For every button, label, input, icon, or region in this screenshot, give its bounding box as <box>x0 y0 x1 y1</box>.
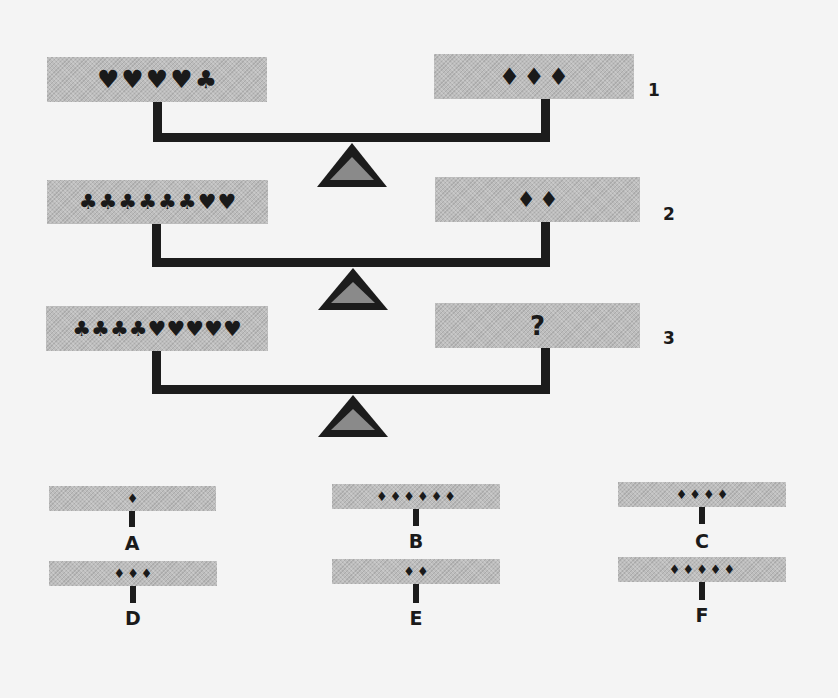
diamond-icon: ♦ <box>696 562 708 577</box>
option-c-diamonds: ♦♦♦♦ <box>675 487 730 502</box>
option-b-diamonds: ♦♦♦♦♦♦ <box>375 489 457 504</box>
scale-2-fulcrum-icon <box>316 266 390 312</box>
club-icon: ♣ <box>195 65 217 94</box>
diamond-icon: ♦ <box>390 489 402 504</box>
scale-2-number: 2 <box>663 204 675 224</box>
diamond-icon: ♦ <box>127 491 139 506</box>
option-e-label[interactable]: E <box>401 607 431 629</box>
scale-2-right-pan: ♦♦ <box>435 177 640 222</box>
option-f-label[interactable]: F <box>687 604 717 626</box>
heart-icon: ♥ <box>166 317 185 341</box>
club-icon: ♣ <box>178 190 197 214</box>
club-icon: ♣ <box>79 190 98 214</box>
diamond-icon: ♦ <box>683 562 695 577</box>
scale-1-number: 1 <box>648 80 660 100</box>
scale-2-left-symbols: ♣♣♣♣♣♣♥♥ <box>79 190 237 214</box>
option-d-pan[interactable]: ♦♦♦ <box>49 561 217 586</box>
club-icon: ♣ <box>138 190 157 214</box>
diamond-icon: ♦ <box>710 562 722 577</box>
scale-3-left-pan: ♣♣♣♣♥♥♥♥♥ <box>46 306 268 351</box>
option-c-pan[interactable]: ♦♦♦♦ <box>618 482 786 507</box>
scale-1-left-pan: ♥♥♥♥♣ <box>47 57 267 102</box>
club-icon: ♣ <box>129 317 148 341</box>
heart-icon: ♥ <box>217 190 236 214</box>
diamond-icon: ♦ <box>431 489 443 504</box>
diamond-icon: ♦ <box>723 562 735 577</box>
option-b-label[interactable]: B <box>401 530 431 552</box>
scale-3-number: 3 <box>663 328 675 348</box>
heart-icon: ♥ <box>223 317 242 341</box>
diamond-icon: ♦ <box>669 562 681 577</box>
scale-2-right-symbols: ♦♦ <box>516 187 558 212</box>
diamond-icon: ♦ <box>403 564 415 579</box>
diamond-icon: ♦ <box>444 489 456 504</box>
diamond-icon: ♦ <box>676 487 688 502</box>
option-f-stem <box>699 582 705 600</box>
heart-icon: ♥ <box>198 190 217 214</box>
club-icon: ♣ <box>158 190 177 214</box>
diamond-icon: ♦ <box>114 566 126 581</box>
scale-3-left-symbols: ♣♣♣♣♥♥♥♥♥ <box>72 317 241 341</box>
diamond-icon: ♦ <box>717 487 729 502</box>
option-d-diamonds: ♦♦♦ <box>113 566 154 581</box>
diamond-icon: ♦ <box>417 564 429 579</box>
diamond-icon: ♦ <box>376 489 388 504</box>
scale-1-left-symbols: ♥♥♥♥♣ <box>97 65 217 94</box>
heart-icon: ♥ <box>121 65 143 94</box>
option-c-label[interactable]: C <box>687 530 717 552</box>
option-a-stem <box>129 511 135 527</box>
heart-icon: ♥ <box>170 65 192 94</box>
diamond-icon: ♦ <box>539 187 559 212</box>
diamond-icon: ♦ <box>703 487 715 502</box>
club-icon: ♣ <box>91 317 110 341</box>
scale-1-fulcrum-icon <box>315 141 389 189</box>
option-b-pan[interactable]: ♦♦♦♦♦♦ <box>332 484 500 509</box>
scale-2-left-pan: ♣♣♣♣♣♣♥♥ <box>47 180 268 224</box>
option-e-stem <box>413 584 419 603</box>
heart-icon: ♥ <box>148 317 167 341</box>
option-d-stem <box>130 586 136 603</box>
option-b-stem <box>413 509 419 526</box>
heart-icon: ♥ <box>146 65 168 94</box>
option-a-diamonds: ♦ <box>126 491 140 506</box>
club-icon: ♣ <box>99 190 118 214</box>
option-a-label[interactable]: A <box>117 532 147 554</box>
option-f-pan[interactable]: ♦♦♦♦♦ <box>618 557 786 582</box>
diamond-icon: ♦ <box>403 489 415 504</box>
scale-1-right-pan: ♦♦♦ <box>434 54 634 99</box>
diamond-icon: ♦ <box>141 566 153 581</box>
option-d-label[interactable]: D <box>118 607 148 629</box>
option-f-diamonds: ♦♦♦♦♦ <box>668 562 736 577</box>
diamond-icon: ♦ <box>548 63 570 91</box>
heart-icon: ♥ <box>204 317 223 341</box>
option-e-pan[interactable]: ♦♦ <box>332 559 500 584</box>
diamond-icon: ♦ <box>689 487 701 502</box>
club-icon: ♣ <box>110 317 129 341</box>
option-a-pan[interactable]: ♦ <box>49 486 216 511</box>
diamond-icon: ♦ <box>523 63 545 91</box>
scale-1-right-symbols: ♦♦♦ <box>499 63 570 91</box>
diamond-icon: ♦ <box>127 566 139 581</box>
diamond-icon: ♦ <box>417 489 429 504</box>
scale-3-fulcrum-icon <box>316 393 390 439</box>
club-icon: ♣ <box>72 317 91 341</box>
scale-3-right-pan: ? <box>435 303 640 348</box>
diamond-icon: ♦ <box>516 187 536 212</box>
club-icon: ♣ <box>118 190 137 214</box>
option-e-diamonds: ♦♦ <box>402 564 429 579</box>
heart-icon: ♥ <box>185 317 204 341</box>
heart-icon: ♥ <box>97 65 119 94</box>
diamond-icon: ♦ <box>499 63 521 91</box>
unknown-weight-question-mark: ? <box>530 311 545 341</box>
option-c-stem <box>699 507 705 524</box>
